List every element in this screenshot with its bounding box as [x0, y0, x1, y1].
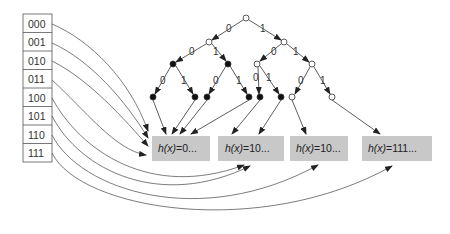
- svg-text:0: 0: [298, 75, 304, 86]
- directory-entry-110: 110: [28, 129, 45, 141]
- directory-entry-011: 011: [28, 73, 45, 85]
- directory-entry-100: 100: [28, 92, 46, 104]
- svg-text:0: 0: [226, 23, 232, 34]
- directory-pointers: [52, 24, 392, 210]
- bucket-1: h(x)=0...: [152, 136, 210, 161]
- svg-text:1: 1: [260, 23, 266, 34]
- svg-text:0: 0: [213, 75, 219, 86]
- svg-text:1: 1: [266, 72, 272, 83]
- svg-text:0: 0: [253, 72, 259, 83]
- svg-text:1: 1: [293, 46, 299, 57]
- bucket-3: h(x)=10...: [290, 136, 348, 161]
- directory-table: 000 001 010 011 100 101 110 111: [23, 14, 52, 162]
- svg-text:h(x)=10...: h(x)=10...: [296, 142, 341, 154]
- svg-text:0: 0: [160, 75, 166, 86]
- pointer-011: [52, 80, 146, 155]
- svg-text:1: 1: [181, 75, 187, 86]
- directory-entry-000: 000: [28, 18, 46, 30]
- pointer-111: [52, 153, 392, 210]
- svg-text:0: 0: [271, 46, 277, 57]
- pointer-001: [52, 43, 148, 138]
- svg-text:h(x)=10...: h(x)=10...: [225, 142, 270, 154]
- bucket-4: h(x)=111...: [362, 136, 432, 161]
- root-node: [243, 15, 249, 21]
- extendible-hashing-diagram: 000 001 010 011 100 101 110 111: [0, 0, 450, 234]
- svg-text:h(x)=0...: h(x)=0...: [158, 142, 197, 154]
- svg-text:h(x)=111...: h(x)=111...: [368, 142, 417, 154]
- directory-entry-111: 111: [28, 147, 44, 159]
- svg-text:1: 1: [213, 46, 219, 57]
- directory-entry-101: 101: [28, 110, 46, 122]
- directory-entry-010: 010: [28, 55, 46, 67]
- svg-text:0: 0: [189, 46, 195, 57]
- svg-text:1: 1: [320, 75, 326, 86]
- bucket-2: h(x)=10...: [218, 136, 284, 161]
- pointer-000: [52, 24, 148, 131]
- trie-edge-labels: 0 1 0 1 0 1 0 1 0 1 0 1 0 1: [160, 23, 326, 86]
- pointer-010: [52, 61, 148, 146]
- svg-text:1: 1: [236, 75, 242, 86]
- directory-entry-001: 001: [28, 36, 46, 48]
